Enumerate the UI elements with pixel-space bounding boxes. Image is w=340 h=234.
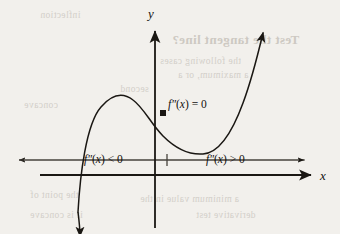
concave-down-label: f″(x) < 0 (84, 153, 123, 165)
function-curve-group (78, 33, 263, 234)
x-axis-label: x (320, 168, 326, 184)
inflection-point-marker (160, 110, 166, 116)
cubic-curve-down-arrow (78, 212, 80, 234)
concave-up-label: f″(x) > 0 (206, 153, 245, 165)
axes-group (40, 31, 311, 228)
inflection-point-label: f″(x) = 0 (168, 98, 207, 110)
y-axis-label: y (148, 6, 154, 22)
cubic-curve (78, 33, 263, 212)
diagram-canvas (0, 0, 340, 234)
sign-line-group (19, 154, 305, 166)
concavity-figure: Test the tangent line? the following cas… (0, 0, 340, 234)
